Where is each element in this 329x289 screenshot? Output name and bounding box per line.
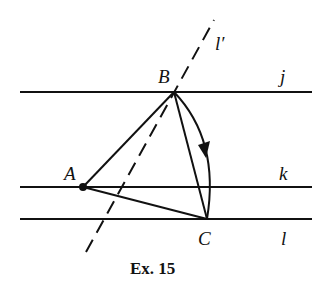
label-k: k <box>279 163 288 184</box>
segment-bc <box>174 92 207 219</box>
label-a: A <box>62 163 76 184</box>
point-a <box>79 183 87 191</box>
geometry-diagram: B A C j k l l′ Ex. 15 <box>0 0 329 289</box>
segment-ac <box>83 187 207 219</box>
label-l: l <box>281 228 286 249</box>
label-c: C <box>198 228 211 249</box>
label-j: j <box>277 66 285 87</box>
label-b: B <box>158 66 170 87</box>
segment-ab <box>83 92 174 187</box>
arrowhead-icon <box>198 141 210 158</box>
dashed-line-l-prime <box>86 20 214 252</box>
caption: Ex. 15 <box>130 259 175 278</box>
label-l-prime: l′ <box>215 33 225 54</box>
